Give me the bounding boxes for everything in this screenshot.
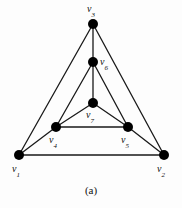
edge-layer: [19, 24, 164, 155]
graph-vertex-v1: [14, 150, 24, 160]
graph-vertex-v5: [123, 122, 133, 132]
vertex-label-v7: v7: [86, 110, 94, 120]
graph-vertex-v3: [88, 19, 98, 29]
vertex-label-v1: v1: [12, 164, 20, 174]
graph-edge: [93, 103, 128, 127]
graph-vertex-v2: [159, 150, 169, 160]
vertex-label-v2: v2: [157, 164, 165, 174]
vertex-layer: [14, 19, 169, 160]
graph-edge: [128, 127, 164, 155]
vertex-label-v5: v5: [121, 135, 129, 145]
vertex-label-v3: v3: [87, 4, 95, 14]
graph-edge: [93, 62, 128, 127]
graph-vertex-v4: [51, 122, 61, 132]
figure-caption: (a): [0, 184, 182, 196]
figure-container: v1v2v3v4v5v6v7 (a): [0, 0, 182, 208]
graph-vertex-v6: [88, 57, 98, 67]
graph-vertex-v7: [88, 98, 98, 108]
vertex-label-v4: v4: [49, 135, 57, 145]
graph-drawing: [0, 0, 182, 208]
vertex-label-v6: v6: [100, 57, 108, 67]
